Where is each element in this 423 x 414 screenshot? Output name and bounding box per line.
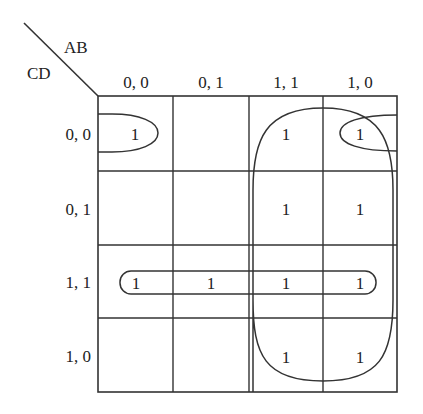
left-variable-label: CD: [27, 65, 51, 82]
corner-diagonal: [24, 23, 98, 96]
column-header: 0, 0: [123, 74, 149, 91]
row-header: 0, 0: [66, 126, 92, 143]
karnaugh-map: AB CD 0, 0 0, 1 1, 1 1, 0 0, 0 0, 1 1, 1…: [0, 0, 423, 414]
row-header: 1, 0: [66, 348, 92, 365]
cell-value: 1: [282, 275, 291, 292]
cell-value: 1: [131, 126, 140, 143]
grid-border: [98, 96, 397, 392]
top-variable-label: AB: [64, 39, 88, 56]
cell-value: 1: [207, 275, 216, 292]
column-header: 1, 0: [347, 74, 373, 91]
group-loop-row-pill: [120, 271, 376, 294]
cell-value: 1: [356, 126, 365, 143]
cell-value: 1: [282, 349, 291, 366]
row-header: 1, 1: [66, 274, 92, 291]
column-header: 0, 1: [198, 74, 224, 91]
cell-value: 1: [282, 126, 291, 143]
column-header: 1, 1: [273, 74, 299, 91]
cell-value: 1: [356, 275, 365, 292]
cell-value: 1: [132, 275, 141, 292]
cell-value: 1: [356, 349, 365, 366]
cell-value: 1: [356, 201, 365, 218]
cell-value: 1: [282, 201, 291, 218]
row-header: 0, 1: [66, 201, 92, 218]
group-loop-left-oval: [98, 114, 158, 152]
